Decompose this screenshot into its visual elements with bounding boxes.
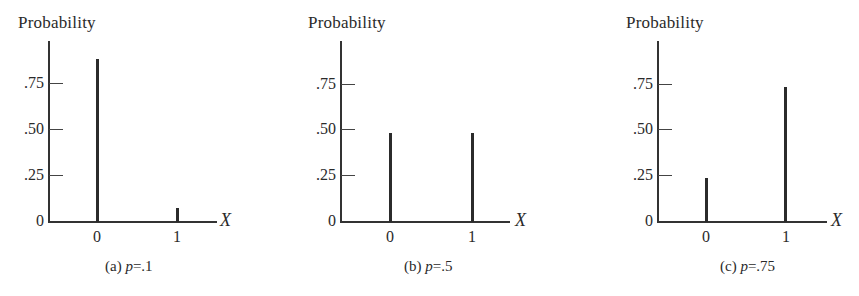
y-axis-line xyxy=(657,41,659,223)
y-tick-label: 0 xyxy=(14,212,44,230)
x-axis-line xyxy=(48,221,217,223)
y-tick-label: .75 xyxy=(623,75,653,93)
x-tick-label: 1 xyxy=(778,228,794,246)
bar-x0 xyxy=(389,133,392,222)
chart-caption: (b) p=.5 xyxy=(404,258,452,275)
y-tick-label: .50 xyxy=(306,120,336,138)
caption-param: p xyxy=(740,258,748,274)
bar-x1 xyxy=(176,208,179,222)
y-tick-50 xyxy=(49,129,63,130)
caption-value: =.75 xyxy=(748,258,775,274)
x-axis-title: X xyxy=(220,210,231,231)
y-tick-75 xyxy=(49,83,63,84)
bar-x0 xyxy=(96,59,99,222)
y-tick-label: 0 xyxy=(623,212,653,230)
y-axis-title: Probability xyxy=(626,13,704,33)
y-tick-label: .25 xyxy=(14,166,44,184)
caption-param: p xyxy=(425,258,433,274)
y-axis-line xyxy=(48,41,50,223)
y-tick-label: .25 xyxy=(306,166,336,184)
chart-caption: (c) p=.75 xyxy=(720,258,775,275)
y-tick-75 xyxy=(658,84,672,85)
y-tick-50 xyxy=(341,129,355,130)
x-tick-label: 0 xyxy=(89,228,105,246)
chart-panel-b: Probability .75 .50 .25 0 0 1 X (b) p=.5 xyxy=(290,0,580,296)
y-tick-label: 0 xyxy=(306,212,336,230)
bar-x1 xyxy=(784,87,787,222)
y-tick-25 xyxy=(658,175,672,176)
y-tick-label: .75 xyxy=(306,75,336,93)
y-axis-title: Probability xyxy=(18,13,96,33)
caption-param: p xyxy=(125,258,133,274)
x-axis-title: X xyxy=(515,210,526,231)
bar-x1 xyxy=(471,133,474,222)
y-tick-25 xyxy=(341,175,355,176)
chart-panel-c: Probability .75 .50 .25 0 0 1 X (c) p=.7… xyxy=(580,0,859,296)
y-tick-label: .75 xyxy=(14,74,44,92)
x-tick-label: 0 xyxy=(382,228,398,246)
y-tick-label: .25 xyxy=(623,166,653,184)
chart-caption: (a) p=.1 xyxy=(105,258,153,275)
x-tick-label: 1 xyxy=(464,228,480,246)
y-tick-75 xyxy=(341,84,355,85)
x-axis-line xyxy=(657,221,827,223)
caption-value: =.1 xyxy=(133,258,153,274)
caption-label: (a) xyxy=(105,258,122,274)
y-tick-label: .50 xyxy=(623,120,653,138)
caption-label: (b) xyxy=(404,258,422,274)
y-axis-line xyxy=(340,41,342,223)
x-axis-title: X xyxy=(831,210,842,231)
bar-x0 xyxy=(705,178,708,222)
y-tick-label: .50 xyxy=(14,120,44,138)
y-tick-25 xyxy=(49,175,63,176)
x-axis-line xyxy=(340,221,510,223)
chart-panel-a: Probability .75 .50 .25 0 0 1 X (a) p=.1 xyxy=(0,0,290,296)
y-axis-title: Probability xyxy=(308,13,386,33)
x-tick-label: 1 xyxy=(169,228,185,246)
x-tick-label: 0 xyxy=(698,228,714,246)
caption-value: =.5 xyxy=(433,258,453,274)
y-tick-50 xyxy=(658,129,672,130)
caption-label: (c) xyxy=(720,258,737,274)
